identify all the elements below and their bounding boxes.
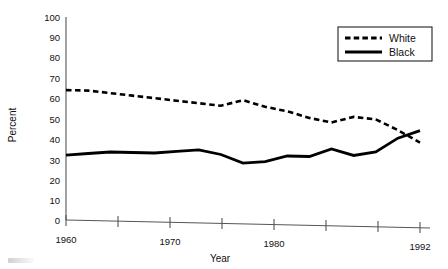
series-line-black (66, 131, 420, 164)
x-axis-title: Year (210, 253, 231, 264)
chart-legend: White Black (338, 27, 432, 61)
line-chart: 100 90 80 70 60 50 40 30 20 10 0 1960 19 (0, 0, 448, 269)
x-tick-label-1980: 1980 (263, 238, 284, 249)
y-tick-label: 90 (49, 32, 60, 43)
chart-container: 100 90 80 70 60 50 40 30 20 10 0 1960 19 (0, 0, 448, 269)
y-tick-label: 70 (49, 73, 60, 84)
caption-smudge (8, 258, 34, 263)
y-axis-title: Percent (7, 108, 18, 143)
series-line-white (66, 90, 420, 143)
y-tick-label: 100 (44, 12, 60, 23)
x-tick-labels: 1960 1970 1980 1992 (55, 234, 430, 252)
x-tick-label-1960: 1960 (55, 234, 76, 245)
legend-label-white: White (389, 32, 416, 44)
legend-box (338, 27, 432, 61)
y-tick-label: 40 (49, 134, 60, 145)
y-tick-label: 20 (49, 175, 60, 186)
legend-label-black: Black (389, 46, 415, 58)
y-tick-labels: 100 90 80 70 60 50 40 30 20 10 0 (44, 12, 60, 226)
y-tick-label: 60 (49, 93, 60, 104)
y-tick-label: 0 (55, 215, 60, 226)
y-tick-label: 50 (49, 114, 60, 125)
x-tick-label-1992: 1992 (409, 241, 430, 252)
y-tick-label: 10 (49, 195, 60, 206)
x-tick-label-1970: 1970 (159, 236, 180, 247)
y-tick-label: 30 (49, 155, 60, 166)
x-axis-line (66, 220, 430, 228)
y-tick-label: 80 (49, 52, 60, 63)
